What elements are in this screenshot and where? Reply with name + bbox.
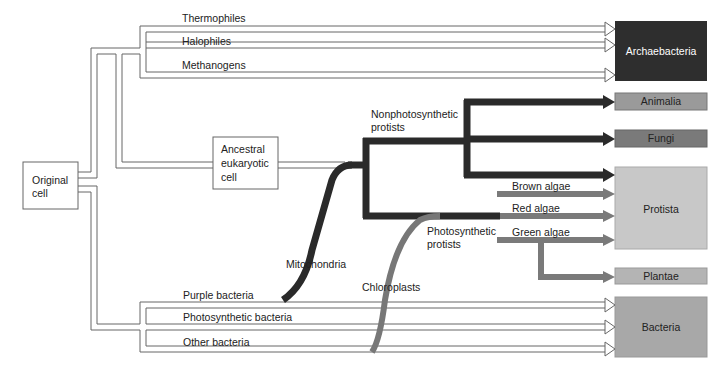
kingdom-protista: Protista <box>615 167 707 249</box>
original-cell-node: Original cell <box>23 162 78 209</box>
animalia-label: Animalia <box>641 95 681 107</box>
ancestral-label-2: eukaryotic <box>221 157 269 169</box>
original-cell-label-2: cell <box>32 187 48 199</box>
halophiles-label: Halophiles <box>182 35 231 47</box>
archaebacteria-label: Archaebacteria <box>626 45 697 57</box>
photosynthetic-bacteria-label: Photosynthetic bacteria <box>183 311 292 323</box>
ancestral-eukaryote-node: Ancestral eukaryotic cell <box>213 137 345 189</box>
photosynthetic-label-2: protists <box>427 238 461 250</box>
kingdom-fungi: Fungi <box>615 130 707 147</box>
other-bacteria-label: Other bacteria <box>183 336 250 348</box>
nonphotosynthetic-label-1: Nonphotosynthetic <box>371 108 458 120</box>
archaea-branches: Thermophiles Halophiles Methanogens <box>78 12 615 178</box>
brown-algae-label: Brown algae <box>512 180 571 192</box>
kingdom-archaebacteria: Archaebacteria <box>615 21 707 81</box>
thermophiles-label: Thermophiles <box>182 12 246 24</box>
protista-label: Protista <box>643 203 679 215</box>
ancestral-label-1: Ancestral <box>221 143 265 155</box>
photosynthetic-label-1: Photosynthetic <box>427 225 496 237</box>
nonphotosynthetic-label-2: protists <box>371 121 405 133</box>
red-algae-label: Red algae <box>512 202 560 214</box>
eukaryote-lineages <box>283 95 615 352</box>
mitochondria-label: Mitochondria <box>286 258 346 270</box>
fungi-label: Fungi <box>648 132 674 144</box>
plantae-label: Plantae <box>643 270 679 282</box>
kingdom-animalia: Animalia <box>615 93 707 110</box>
ancestral-label-3: cell <box>221 171 237 183</box>
methanogens-label: Methanogens <box>182 59 246 71</box>
chloroplasts-label: Chloroplasts <box>362 281 420 293</box>
kingdom-plantae: Plantae <box>615 268 707 284</box>
original-cell-label-1: Original <box>32 174 68 186</box>
purple-bacteria-label: Purple bacteria <box>183 289 254 301</box>
green-algae-label: Green algae <box>512 226 570 238</box>
bacteria-label: Bacteria <box>642 321 681 333</box>
kingdom-bacteria: Bacteria <box>615 297 707 357</box>
phylogeny-diagram: Archaebacteria Animalia Fungi Protista P… <box>0 0 722 368</box>
